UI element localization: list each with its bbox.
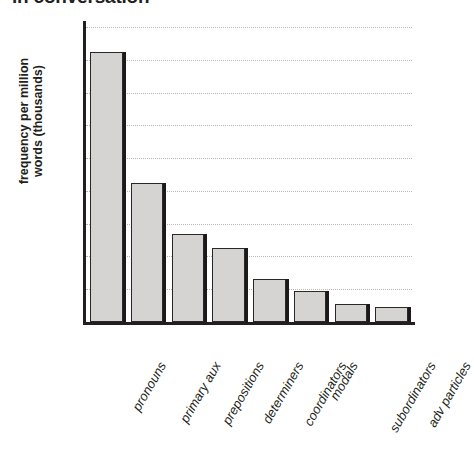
gridline [86,27,412,28]
chart-title: in conversation [12,0,149,8]
bar-adv-particles [375,307,408,322]
gridline [86,125,412,126]
bar-subordinators [335,304,368,322]
plot-area: 020406080100120140160180 pronounsprimary… [86,27,412,322]
x-tick-label: determiners [259,359,306,426]
x-tick-label: pronouns [129,359,169,413]
y-axis-title-line-1: frequency per million [17,58,31,184]
bar-pronouns [90,52,123,322]
gridline [86,93,412,94]
x-axis-line [83,322,415,325]
bar-primary-aux [131,183,164,322]
gridline [86,158,412,159]
gridline [86,60,412,61]
y-axis-title: frequency per million words (thousands) [12,31,50,211]
bar-modals [294,291,327,322]
y-axis-title-line-2: words (thousands) [31,65,45,177]
x-tick-label: primary aux [177,359,224,425]
bar-prepositions [172,234,205,323]
bar-determiners [212,248,245,322]
y-axis-line [83,21,86,322]
bar-coordinators [253,279,286,322]
